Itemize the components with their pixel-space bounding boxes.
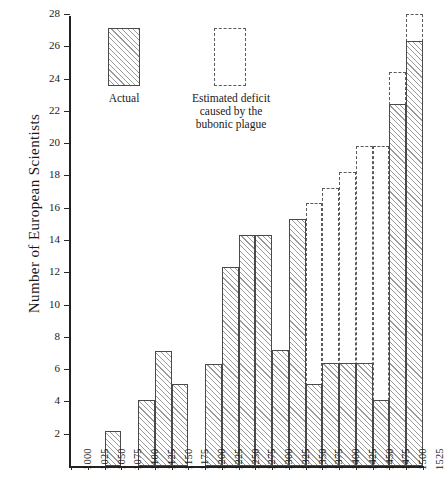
bar-actual — [389, 104, 406, 466]
y-axis-tick-label: 4 — [34, 395, 60, 406]
y-axis-tick-label: 28 — [34, 8, 60, 19]
x-axis-tick-mark — [272, 466, 273, 470]
x-axis-tick-mark — [406, 466, 407, 470]
legend-label-actual: Actual — [92, 92, 156, 105]
y-axis-tick-label: 16 — [34, 202, 60, 213]
x-axis-tick-mark — [88, 466, 89, 470]
y-axis-tick-mark — [64, 14, 70, 15]
x-axis-tick-mark — [339, 466, 340, 470]
x-axis-tick-mark — [423, 466, 424, 470]
x-axis-tick-label: 1525 — [435, 448, 446, 470]
y-axis-title: Number of European Scientists — [26, 94, 43, 334]
legend-label-estimated-line3: bubonic plague — [168, 118, 294, 131]
legend-label-estimated-line1: Estimated deficit — [168, 92, 294, 105]
x-axis-tick-mark — [373, 466, 374, 470]
x-axis-tick-mark — [389, 466, 390, 470]
x-axis-tick-mark — [172, 466, 173, 470]
x-axis-tick-mark — [71, 466, 72, 470]
bar-actual — [289, 219, 306, 466]
legend-swatch-estimated — [214, 28, 246, 86]
y-axis-tick-label: 10 — [34, 299, 60, 310]
x-axis-tick-mark — [105, 466, 106, 470]
x-axis-tick-mark — [205, 466, 206, 470]
y-axis-tick-label: 26 — [34, 40, 60, 51]
x-axis-tick-mark — [121, 466, 122, 470]
x-axis-tick-mark — [239, 466, 240, 470]
x-axis-tick-mark — [222, 466, 223, 470]
x-axis-tick-mark — [188, 466, 189, 470]
x-axis-tick-mark — [306, 466, 307, 470]
y-axis-tick-label: 20 — [34, 137, 60, 148]
x-axis-tick-mark — [356, 466, 357, 470]
y-axis-tick-label: 18 — [34, 169, 60, 180]
y-axis-tick-label: 14 — [34, 234, 60, 245]
x-axis-tick-mark — [138, 466, 139, 470]
y-axis-tick-label: 2 — [34, 428, 60, 439]
bar-actual — [406, 41, 423, 466]
y-axis-tick-label: 24 — [34, 73, 60, 84]
x-axis-tick-mark — [289, 466, 290, 470]
bar-actual — [222, 267, 239, 466]
y-axis-tick-label: 6 — [34, 363, 60, 374]
x-axis-tick-mark — [155, 466, 156, 470]
x-axis-tick-mark — [255, 466, 256, 470]
x-axis-tick-mark — [322, 466, 323, 470]
chart-legend: Actual Estimated deficit caused by the b… — [88, 14, 348, 119]
legend-label-estimated-line2: caused by the — [168, 105, 294, 118]
y-axis-tick-label: 22 — [34, 105, 60, 116]
legend-swatch-actual — [108, 28, 140, 86]
y-axis-tick-label: 8 — [34, 331, 60, 342]
bar-actual — [239, 235, 256, 466]
bar-actual — [255, 235, 272, 466]
y-axis-tick-label: 12 — [34, 266, 60, 277]
